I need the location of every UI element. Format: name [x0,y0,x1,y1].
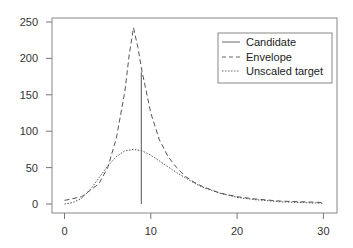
y-tick-label: 0 [32,198,38,210]
legend-label-envelope: Envelope [246,51,292,63]
legend: Candidate Envelope Unscaled target [218,33,332,83]
x-axis: 0102030 [61,213,329,237]
x-tick-label: 30 [317,225,329,237]
x-tick-label: 0 [61,225,67,237]
y-tick-label: 200 [20,52,38,64]
y-tick-label: 250 [20,16,38,28]
x-tick-label: 20 [231,225,243,237]
x-tick-label: 10 [145,225,157,237]
y-tick-label: 150 [20,89,38,101]
y-axis: 050100150200250 [20,16,52,210]
y-tick-label: 100 [20,125,38,137]
chart: 050100150200250 0102030 Candidate Envelo… [0,0,353,248]
series-unscaled-target [65,149,324,204]
legend-label-candidate: Candidate [246,36,296,48]
y-tick-label: 50 [26,162,38,174]
legend-label-unscaled-target: Unscaled target [246,65,323,77]
